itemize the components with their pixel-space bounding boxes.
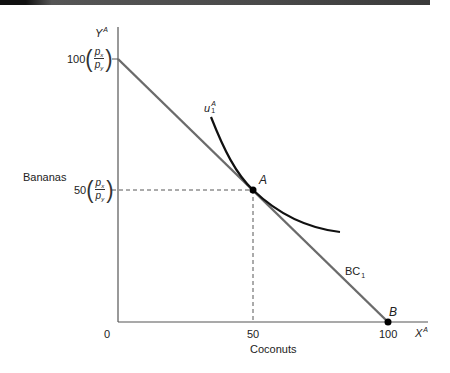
budget-line-label: BC1 [345,266,365,277]
price-ratio-fraction: px py [94,47,105,70]
u-symbol: u [204,102,210,114]
x-axis-superscript: A [423,326,428,333]
point-a-label: A [259,174,267,186]
y-tick-50-value: 50 [74,184,86,196]
price-ratio-fraction: px py [95,178,106,201]
close-paren: ) [105,46,112,70]
px-subscript: x [101,183,104,189]
point-b-marker [385,319,392,326]
open-paren: ( [85,46,92,70]
x-axis-label-coconuts: Coconuts [250,344,296,355]
u-subscript: 1 [211,107,216,114]
indifference-curve-label: uA1 [204,103,216,117]
y-tick-100-value: 100 [67,53,85,65]
y-tick-50-label: 50 ( px py ) [74,178,113,201]
u-superscript: A [211,100,216,107]
x-tick-100-label: 100 [379,329,397,340]
origin-label: 0 [104,329,110,340]
y-axis-label-bananas: Bananas [23,172,66,183]
y-axis-superscript: A [103,26,108,33]
py-subscript: y [101,196,104,202]
close-paren: ) [106,177,113,201]
x-axis-letter: X [415,327,422,339]
y-tick-100-label: 100 ( px py ) [67,47,113,70]
point-a-marker [250,187,257,194]
x-axis-symbol: XA [415,328,428,339]
indifference-curve-u1 [211,117,340,232]
point-b-label: B [389,306,397,318]
y-axis-letter: Y [95,27,102,39]
bc-subscript: 1 [361,272,365,279]
px-subscript: x [100,52,103,58]
x-tick-50-label: 50 [247,329,259,340]
bc-text: BC [345,265,360,277]
py-subscript: y [100,65,103,71]
y-axis-symbol: YA [95,28,108,39]
open-paren: ( [86,177,93,201]
